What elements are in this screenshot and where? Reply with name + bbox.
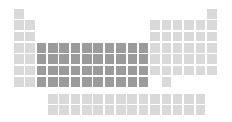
element-cell: [162, 54, 172, 64]
element-cell: [14, 54, 24, 64]
f-block-element-cell: [184, 105, 194, 115]
element-cell: [116, 77, 126, 87]
element-cell: [25, 20, 35, 30]
f-block-element-cell: [196, 105, 206, 115]
periodic-table-figure: [0, 0, 232, 122]
f-block-element-cell: [93, 105, 103, 115]
f-block-element-cell: [196, 94, 206, 104]
element-cell: [93, 43, 103, 53]
f-block-element-cell: [71, 94, 81, 104]
element-cell: [150, 43, 160, 53]
f-block-element-cell: [150, 94, 160, 104]
element-cell: [25, 66, 35, 76]
f-block-element-cell: [71, 105, 81, 115]
element-cell: [173, 20, 183, 30]
element-cell: [82, 77, 92, 87]
element-cell: [150, 20, 160, 30]
element-cell: [105, 77, 115, 87]
element-cell: [14, 20, 24, 30]
f-block-element-cell: [173, 94, 183, 104]
element-cell: [25, 32, 35, 42]
element-cell: [162, 32, 172, 42]
element-cell: [184, 54, 194, 64]
element-cell: [139, 54, 149, 64]
element-cell: [150, 32, 160, 42]
element-cell: [128, 54, 138, 64]
element-cell: [14, 77, 24, 87]
element-cell: [25, 77, 35, 87]
element-cell: [207, 54, 217, 64]
f-block-element-cell: [105, 105, 115, 115]
element-cell: [162, 20, 172, 30]
f-block-element-cell: [162, 105, 172, 115]
element-cell: [105, 54, 115, 64]
element-cell: [196, 20, 206, 30]
element-cell: [173, 54, 183, 64]
element-cell: [184, 66, 194, 76]
element-cell: [196, 66, 206, 76]
element-cell: [207, 43, 217, 53]
element-cell: [37, 77, 47, 87]
element-cell: [59, 77, 69, 87]
element-cell: [48, 66, 58, 76]
element-cell: [59, 43, 69, 53]
element-cell: [207, 9, 217, 19]
element-cell: [116, 54, 126, 64]
element-cell: [196, 54, 206, 64]
f-block-element-cell: [105, 94, 115, 104]
f-block-element-cell: [116, 94, 126, 104]
element-cell: [162, 66, 172, 76]
f-block-element-cell: [93, 94, 103, 104]
element-cell: [207, 66, 217, 76]
element-cell: [59, 66, 69, 76]
element-cell: [139, 66, 149, 76]
f-block-element-cell: [59, 105, 69, 115]
element-cell: [37, 66, 47, 76]
element-cell: [71, 77, 81, 87]
element-cell: [139, 77, 149, 87]
element-cell: [71, 66, 81, 76]
f-block-element-cell: [48, 105, 58, 115]
element-cell: [196, 43, 206, 53]
element-cell: [14, 43, 24, 53]
f-block-element-cell: [127, 105, 137, 115]
f-block-element-cell: [127, 94, 137, 104]
element-cell: [82, 66, 92, 76]
element-cell: [82, 43, 92, 53]
element-cell: [48, 54, 58, 64]
element-cell: [82, 54, 92, 64]
element-cell: [37, 43, 47, 53]
element-cell: [14, 66, 24, 76]
element-cell: [93, 77, 103, 87]
element-cell: [173, 66, 183, 76]
element-cell: [48, 77, 58, 87]
element-cell: [59, 54, 69, 64]
element-cell: [116, 66, 126, 76]
element-cell: [184, 20, 194, 30]
f-block-element-cell: [162, 94, 172, 104]
element-cell: [196, 32, 206, 42]
f-block-element-cell: [184, 94, 194, 104]
f-block-element-cell: [139, 105, 149, 115]
element-cell: [150, 54, 160, 64]
element-cell: [14, 32, 24, 42]
element-cell: [93, 66, 103, 76]
element-cell: [184, 43, 194, 53]
f-block-element-cell: [82, 94, 92, 104]
element-cell: [128, 77, 138, 87]
f-block-element-cell: [82, 105, 92, 115]
element-cell: [173, 32, 183, 42]
f-block-element-cell: [59, 94, 69, 104]
f-block-element-cell: [173, 105, 183, 115]
element-cell: [116, 43, 126, 53]
element-cell: [207, 32, 217, 42]
element-cell: [207, 20, 217, 30]
f-block-element-cell: [116, 105, 126, 115]
element-cell: [184, 32, 194, 42]
element-cell: [162, 43, 172, 53]
element-cell: [139, 43, 149, 53]
f-block-element-cell: [48, 94, 58, 104]
element-cell: [14, 9, 24, 19]
element-cell: [48, 43, 58, 53]
element-cell: [71, 43, 81, 53]
